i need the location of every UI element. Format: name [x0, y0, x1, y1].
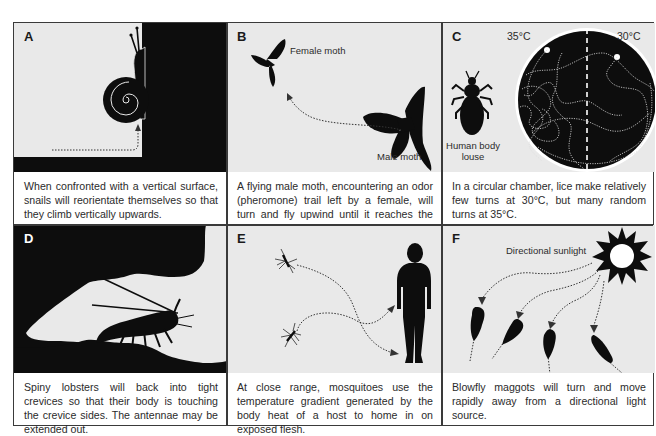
sun-icon	[592, 227, 652, 285]
row-divider	[14, 224, 653, 226]
panel-letter: E	[237, 231, 246, 246]
lobster-crevice-illustration	[14, 225, 227, 373]
snail-tentacles-icon	[131, 28, 139, 53]
floor	[14, 157, 227, 172]
temp-label-30: 30°C	[617, 31, 640, 42]
mosquito-path-arrow	[297, 309, 391, 331]
louse-icon	[452, 71, 492, 135]
human-silhouette-icon	[397, 243, 431, 363]
panel-d-caption: Spiny lobsters will back into tight crev…	[14, 373, 227, 425]
panel-e: E	[227, 225, 442, 425]
panel-c-illustration: C 35°C 30°C Human body louse	[442, 23, 655, 172]
snail-shell-icon	[103, 77, 149, 123]
louse-label: Human body louse	[446, 140, 500, 162]
mosquito-icon	[275, 249, 297, 273]
snail-illustration	[14, 23, 227, 172]
female-moth-label: Female moth	[290, 45, 345, 56]
female-moth-icon	[251, 39, 286, 87]
panel-a-caption: When confronted with a vertical surface,…	[14, 172, 227, 225]
panel-letter: C	[452, 29, 461, 44]
vertical-wall	[142, 23, 227, 172]
mosquito-icon	[281, 323, 301, 347]
panel-letter: B	[237, 29, 246, 44]
panel-c-caption: In a circular chamber, lice make relativ…	[442, 172, 655, 225]
panel-letter: F	[452, 231, 460, 246]
panel-a-illustration: A	[14, 23, 227, 172]
male-moth-label: Male moth	[377, 151, 421, 162]
mosquito-illustration	[227, 225, 442, 373]
panel-letter: D	[24, 231, 33, 246]
maggot-path-arrows	[470, 263, 622, 373]
panel-b: B Female moth Male moth	[227, 23, 442, 225]
panel-b-caption: A flying male moth, encountering an odor…	[227, 172, 442, 225]
temp-label-35: 35°C	[507, 31, 530, 42]
maggot-icon	[471, 307, 613, 363]
panel-a: A When confronted with a vertical surfac…	[14, 23, 227, 225]
panel-d: D Spiny lobsters will back into tight cr…	[14, 225, 227, 425]
mosquito-path-arrow	[297, 265, 393, 353]
panel-b-illustration: B Female moth Male moth	[227, 23, 442, 172]
panel-f: F Directional sunlight	[442, 225, 655, 425]
panel-letter: A	[24, 29, 33, 44]
crevice-opening	[26, 225, 227, 363]
panel-e-caption: At close range, mosquitoes use the tempe…	[227, 373, 442, 425]
panel-c: C 35°C 30°C Human body louse	[442, 23, 655, 225]
panel-e-illustration: E	[227, 225, 442, 373]
panel-d-illustration: D	[14, 225, 227, 373]
panel-f-illustration: F Directional sunlight	[442, 225, 655, 373]
taxis-kinesis-figure: A When confronted with a vertical surfac…	[13, 22, 654, 426]
sunlight-label: Directional sunlight	[506, 245, 586, 256]
panel-f-caption: Blowfly maggots will turn and move rapid…	[442, 373, 655, 425]
snail-path-arrow	[52, 128, 138, 150]
